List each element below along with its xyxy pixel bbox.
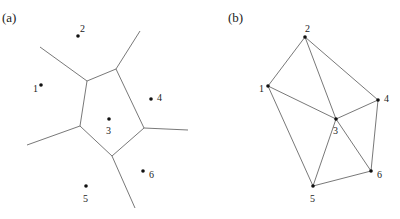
site-point-5: [84, 184, 88, 188]
site-label-2: 2: [305, 23, 310, 34]
site-point-6: [141, 169, 145, 173]
delaunay-triangulation: 123456: [259, 23, 389, 204]
delaunay-edge-3-4: [336, 100, 378, 119]
site-point-2: [76, 34, 80, 38]
site-point-1: [39, 83, 43, 87]
site-label-6: 6: [149, 169, 154, 180]
site-point-4: [149, 97, 153, 101]
delaunay-edge-2-3: [305, 37, 336, 119]
site-point-6: [369, 169, 373, 173]
site-label-2: 2: [80, 23, 85, 34]
delaunay-edge-3-6: [336, 119, 371, 171]
site-label-4: 4: [157, 92, 162, 103]
site-point-1: [266, 84, 270, 88]
site-point-4: [376, 98, 380, 102]
voronoi-edge: [116, 69, 144, 128]
voronoi-diagram: 123456: [27, 23, 188, 208]
voronoi-edge: [87, 69, 116, 81]
site-label-6: 6: [377, 169, 382, 180]
delaunay-edge-4-6: [371, 100, 378, 171]
site-point-3: [107, 117, 111, 121]
voronoi-edge: [27, 126, 80, 145]
voronoi-delaunay-figure: (a) (b) 123456 123456: [0, 0, 400, 219]
voronoi-edge: [144, 128, 188, 130]
delaunay-edge-5-6: [313, 171, 371, 186]
site-label-5: 5: [83, 193, 88, 204]
voronoi-edge: [40, 47, 87, 81]
site-label-1: 1: [259, 83, 264, 94]
voronoi-edge: [116, 31, 140, 69]
site-point-3: [334, 117, 338, 121]
site-label-4: 4: [384, 93, 389, 104]
delaunay-edge-2-4: [305, 37, 378, 100]
site-label-1: 1: [33, 83, 38, 94]
voronoi-edge: [112, 128, 144, 156]
panel-b-label: (b): [228, 10, 243, 25]
site-label-3: 3: [333, 125, 338, 136]
panel-a-label: (a): [2, 10, 16, 25]
site-point-2: [303, 35, 307, 39]
site-label-3: 3: [106, 125, 111, 136]
voronoi-edge: [112, 156, 135, 208]
delaunay-edge-1-2: [268, 37, 305, 86]
site-point-5: [311, 184, 315, 188]
delaunay-edge-1-5: [268, 86, 313, 186]
voronoi-edge: [80, 81, 87, 126]
site-label-5: 5: [310, 193, 315, 204]
